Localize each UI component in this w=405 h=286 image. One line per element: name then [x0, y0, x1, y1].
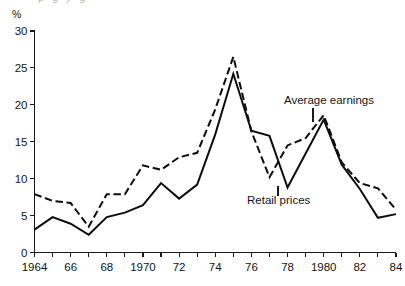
x-axis-tick-labels: 1964666819707274767819808284 — [22, 261, 403, 273]
average-earnings-label: Average earnings — [284, 94, 374, 106]
retail-prices-label: Retail prices — [247, 194, 311, 206]
y-tick-label: 30 — [15, 25, 28, 37]
y-tick-label: 5 — [21, 210, 27, 222]
x-tick-label: 74 — [209, 261, 222, 273]
y-axis-tick-labels: 051015202530 — [15, 25, 28, 259]
y-tick-label: 10 — [15, 173, 28, 185]
x-tick-label: 1964 — [22, 261, 48, 273]
x-tick-label: 72 — [173, 261, 186, 273]
x-axis-ticks — [35, 253, 397, 258]
x-tick-label: 1970 — [130, 261, 156, 273]
chart-plot-area: 051015202530 196466681970727476781980828… — [0, 0, 405, 286]
y-tick-label: 15 — [15, 136, 28, 148]
data-series-group — [35, 57, 397, 235]
x-tick-label: 78 — [281, 261, 294, 273]
x-tick-label: 68 — [100, 261, 113, 273]
y-tick-label: 20 — [15, 99, 28, 111]
y-tick-label: 0 — [21, 247, 27, 259]
y-axis-unit-label: % — [12, 8, 21, 20]
inflation-line-chart-figure: p g y g 051015202530 1964666819707274767… — [0, 0, 405, 286]
x-tick-label: 76 — [245, 261, 258, 273]
x-tick-label: 82 — [353, 261, 366, 273]
y-tick-label: 25 — [15, 62, 28, 74]
x-tick-label: 84 — [390, 261, 403, 273]
x-tick-label: 66 — [64, 261, 77, 273]
x-tick-label: 1980 — [311, 261, 337, 273]
y-axis-ticks — [30, 31, 35, 253]
series-line-average-earnings — [35, 57, 397, 227]
x-axis: 1964666819707274767819808284 — [22, 253, 403, 273]
y-axis: 051015202530 — [15, 25, 35, 259]
series-annotations: Average earnings Retail prices — [247, 94, 374, 206]
